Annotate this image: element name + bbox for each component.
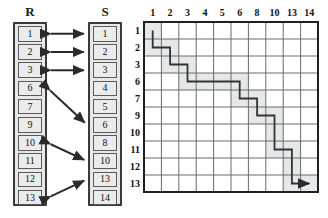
match-arrow [51,181,85,197]
matrix-grid [130,8,324,198]
match-arrow [51,144,85,160]
figure-canvas: R 12367910111213 S 1234568101314 1234568… [0,0,328,218]
alignment-matrix: 1234568101314 12367910111213 [130,8,322,196]
match-arrow [50,90,85,122]
